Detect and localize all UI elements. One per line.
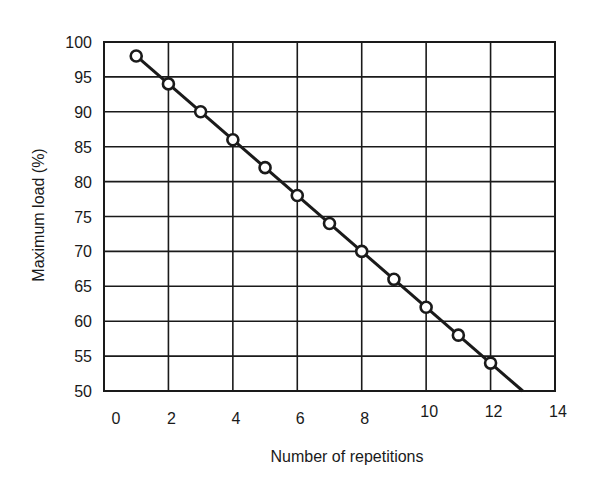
data-point-marker — [453, 330, 464, 341]
x-axis-ticks: 02468101214 — [112, 403, 567, 427]
y-tick-label: 65 — [74, 278, 92, 295]
data-point-marker — [388, 274, 399, 285]
data-point-marker — [421, 302, 432, 313]
y-tick-label: 85 — [74, 139, 92, 156]
x-tick-label: 2 — [167, 410, 176, 427]
x-tick-label: 4 — [231, 410, 240, 427]
data-point-marker — [227, 134, 238, 145]
data-point-marker — [195, 106, 206, 117]
x-tick-label: 12 — [485, 403, 503, 420]
data-point-marker — [485, 358, 496, 369]
x-tick-label: 8 — [360, 410, 369, 427]
grid-lines — [104, 42, 555, 391]
y-tick-label: 60 — [74, 313, 92, 330]
data-point-marker — [356, 246, 367, 257]
data-point-marker — [163, 78, 174, 89]
y-tick-label: 50 — [74, 383, 92, 400]
data-point-marker — [260, 162, 271, 173]
x-axis-label: Number of repetitions — [271, 448, 424, 465]
line-chart: 50556065707580859095100 02468101214 Maxi… — [0, 0, 600, 492]
y-tick-label: 70 — [74, 243, 92, 260]
data-point-marker — [292, 190, 303, 201]
x-tick-label: 0 — [112, 410, 121, 427]
x-tick-label: 10 — [420, 403, 438, 420]
x-tick-label: 14 — [549, 403, 567, 420]
y-tick-label: 75 — [74, 209, 92, 226]
x-tick-label: 6 — [296, 410, 305, 427]
y-tick-label: 95 — [74, 69, 92, 86]
y-tick-label: 100 — [65, 34, 92, 51]
data-point-marker — [324, 218, 335, 229]
data-point-marker — [131, 50, 142, 61]
y-tick-label: 55 — [74, 348, 92, 365]
y-tick-label: 90 — [74, 104, 92, 121]
y-axis-label: Maximum load (%) — [30, 148, 47, 281]
y-axis-ticks: 50556065707580859095100 — [65, 34, 92, 400]
y-tick-label: 80 — [74, 174, 92, 191]
